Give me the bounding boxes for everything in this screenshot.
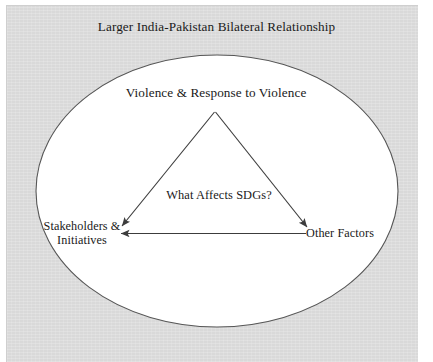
figure-canvas: Larger India-Pakistan Bilateral Relation… (0, 0, 433, 362)
center-question-label: What Affects SDGs? (122, 188, 316, 203)
node-label-stakeholders-line1: Stakeholders & (44, 219, 121, 233)
node-label-stakeholders: Stakeholders & Initiatives (18, 219, 146, 248)
node-label-stakeholders-line2: Initiatives (57, 233, 107, 247)
node-label-violence: Violence & Response to Violence (98, 85, 334, 101)
node-label-other-factors: Other Factors (306, 226, 424, 240)
diagram-svg (0, 0, 433, 362)
